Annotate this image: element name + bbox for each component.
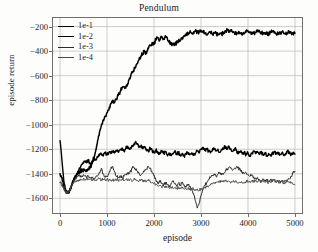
y-tick-label: −200 <box>2 22 48 32</box>
y-axis-tick-labels: −200−400−600−800−1000−1200−1400−1600 <box>0 17 48 214</box>
y-tick-label: −400 <box>2 46 48 56</box>
x-tick-mark <box>201 214 202 217</box>
legend-line-swatch <box>58 57 74 58</box>
legend-item-1e-3[interactable]: 1e-3 <box>58 42 110 53</box>
legend-line-swatch <box>58 36 74 37</box>
x-tick-label: 4000 <box>223 218 273 228</box>
y-tick-label: −1400 <box>2 169 48 179</box>
x-tick-mark <box>154 214 155 217</box>
legend-label: 1e-4 <box>78 54 93 62</box>
x-tick-mark <box>295 214 296 217</box>
x-tick-label: 0 <box>35 218 85 228</box>
y-tick-label: −1600 <box>2 193 48 203</box>
legend-line-swatch <box>58 26 74 27</box>
legend-item-1e-4[interactable]: 1e-4 <box>58 53 110 64</box>
legend-line-swatch <box>58 47 74 48</box>
y-tick-label: −1000 <box>2 120 48 130</box>
x-axis-label: episode <box>52 233 303 243</box>
legend-label: 1e-2 <box>78 33 93 41</box>
x-tick-label: 3000 <box>176 218 226 228</box>
x-tick-mark <box>60 214 61 217</box>
chart-title: Pendulum <box>0 3 318 13</box>
y-tick-label: −600 <box>2 71 48 81</box>
x-tick-label: 5000 <box>270 218 318 228</box>
x-tick-mark <box>107 214 108 217</box>
chart-legend: 1e-11e-21e-31e-4 <box>58 21 110 63</box>
x-axis-tick-labels: 010002000300040005000 <box>52 218 303 232</box>
x-tick-label: 2000 <box>129 218 179 228</box>
y-tick-label: −800 <box>2 95 48 105</box>
legend-label: 1e-1 <box>78 22 93 30</box>
y-tick-label: −1200 <box>2 144 48 154</box>
legend-item-1e-2[interactable]: 1e-2 <box>58 32 110 43</box>
chart-figure: Pendulum episode return −200−400−600−800… <box>0 0 318 252</box>
legend-item-1e-1[interactable]: 1e-1 <box>58 21 110 32</box>
legend-label: 1e-3 <box>78 43 93 51</box>
x-tick-mark <box>248 214 249 217</box>
x-tick-label: 1000 <box>82 218 132 228</box>
